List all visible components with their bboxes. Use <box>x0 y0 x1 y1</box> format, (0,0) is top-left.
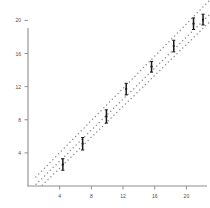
regression-and-confidence-bands <box>35 1 209 186</box>
upper-band-line <box>35 1 209 178</box>
fit-line <box>35 15 209 185</box>
data-point <box>150 61 153 72</box>
x-axis-tick-label: 20 <box>179 193 193 199</box>
lower-band-line <box>42 22 210 186</box>
y-axis-tick-label: 8 <box>6 117 21 123</box>
data-point <box>201 14 204 25</box>
y-axis-tick-label: 20 <box>6 17 21 23</box>
data-point <box>172 40 175 52</box>
y-axis-tick-label: 4 <box>6 150 21 156</box>
y-axis-tick-label: 16 <box>6 51 21 57</box>
plot-area <box>0 0 210 208</box>
x-axis-tick-label: 8 <box>84 193 98 199</box>
x-axis-tick-label: 4 <box>53 193 67 199</box>
data-point-group <box>61 14 204 170</box>
data-point <box>61 159 64 171</box>
data-point <box>192 18 195 30</box>
x-axis-tick-label: 16 <box>148 193 162 199</box>
chart-figure: 48121620 48121620 <box>0 0 210 208</box>
data-point <box>125 83 128 95</box>
x-axis-tick-label: 12 <box>116 193 130 199</box>
y-axis-tick-label: 12 <box>6 84 21 90</box>
